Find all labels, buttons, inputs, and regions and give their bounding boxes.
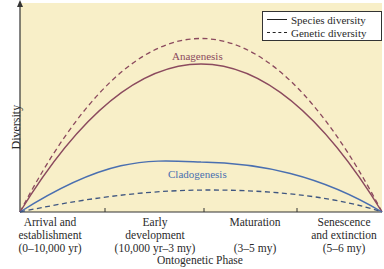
cladogenesis-label: Cladogenesis xyxy=(168,168,227,180)
legend-label: Genetic diversity xyxy=(291,27,366,39)
x-category-maturation: Maturation (3–5 my) xyxy=(215,216,295,255)
legend-label: Species diversity xyxy=(291,14,366,26)
legend-item-genetic: Genetic diversity xyxy=(267,26,366,39)
x-category-early-development: Earlydevelopment(10,000 yr–3 my) xyxy=(110,216,200,255)
x-axis-label: Ontogenetic Phase xyxy=(150,254,250,267)
solid-line-icon xyxy=(267,19,287,20)
x-category-senescence: Senescenceand extinction(5–6 my) xyxy=(302,216,384,255)
x-category-arrival: Arrival andestablishment(0–10,000 yr) xyxy=(10,216,90,255)
dashed-line-icon xyxy=(267,32,287,33)
legend-item-species: Species diversity xyxy=(267,13,366,26)
anagenesis-label: Anagenesis xyxy=(172,50,223,62)
y-axis-label: Diversity xyxy=(9,106,24,150)
legend: Species diversity Genetic diversity xyxy=(262,11,382,41)
